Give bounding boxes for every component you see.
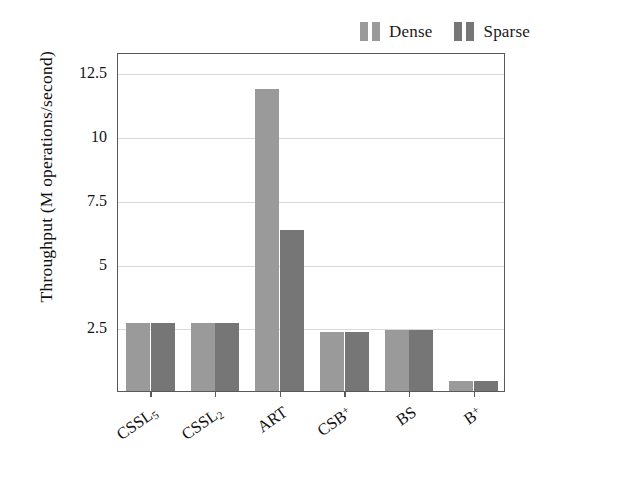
x-tick-mark-art <box>280 391 281 397</box>
bar-b+-sparse <box>474 381 498 391</box>
bar-cssl5-sparse <box>151 323 175 391</box>
legend-swatch-dense-b <box>372 22 380 41</box>
bar-cssl2-sparse <box>215 323 239 391</box>
y-axis-title: Throughput (M operations/second) <box>38 12 56 342</box>
y-tick-label-12.5: 12.5 <box>55 65 107 81</box>
x-tick-label-bs: BS <box>361 404 420 452</box>
bar-bs-sparse <box>409 330 433 391</box>
x-tick-mark-cssl2 <box>215 391 216 397</box>
x-tick-mark-b+ <box>474 391 475 397</box>
legend-swatch-dense <box>360 22 380 41</box>
x-tick-label-csb+: CSB+ <box>296 404 355 453</box>
bar-cssl5-dense <box>126 323 150 391</box>
legend-swatch-dense-a <box>360 22 368 41</box>
bar-chart-figure: Dense Sparse Throughput (M operations/se… <box>0 0 620 483</box>
y-tick-label-7.5: 7.5 <box>55 193 107 209</box>
plot-area <box>117 53 505 392</box>
x-tick-mark-csb+ <box>344 391 345 397</box>
bar-b+-dense <box>449 381 473 391</box>
x-tick-label-art: ART <box>232 404 291 452</box>
legend-entry-dense: Dense <box>360 22 432 41</box>
gridline-10 <box>118 138 504 139</box>
gridline-5 <box>118 266 504 267</box>
x-tick-label-cssl2: CSSL2 <box>167 404 226 453</box>
bar-cssl2-dense <box>191 323 215 391</box>
y-tick-label-10: 10 <box>55 129 107 145</box>
bar-csb+-dense <box>320 332 344 391</box>
legend-swatch-sparse-a <box>454 22 462 41</box>
bar-art-dense <box>255 89 279 391</box>
legend-label-dense: Dense <box>389 23 432 40</box>
gridline-2.5 <box>118 329 504 330</box>
gridline-12.5 <box>118 74 504 75</box>
bar-csb+-sparse <box>345 332 369 391</box>
y-tick-label-5: 5 <box>55 257 107 273</box>
y-tick-label-2.5: 2.5 <box>55 320 107 336</box>
gridline-7.5 <box>118 202 504 203</box>
x-tick-mark-bs <box>409 391 410 397</box>
legend-entry-sparse: Sparse <box>454 22 530 41</box>
plot-inner <box>118 54 504 391</box>
bar-bs-dense <box>385 330 409 391</box>
legend-swatch-sparse <box>454 22 474 41</box>
bar-art-sparse <box>280 230 304 391</box>
x-tick-mark-cssl5 <box>150 391 151 397</box>
x-tick-label-b+: B+ <box>426 404 485 453</box>
chart-legend: Dense Sparse <box>360 16 530 46</box>
legend-swatch-sparse-b <box>466 22 474 41</box>
legend-label-sparse: Sparse <box>483 23 530 40</box>
x-tick-label-cssl5: CSSL5 <box>102 404 161 453</box>
